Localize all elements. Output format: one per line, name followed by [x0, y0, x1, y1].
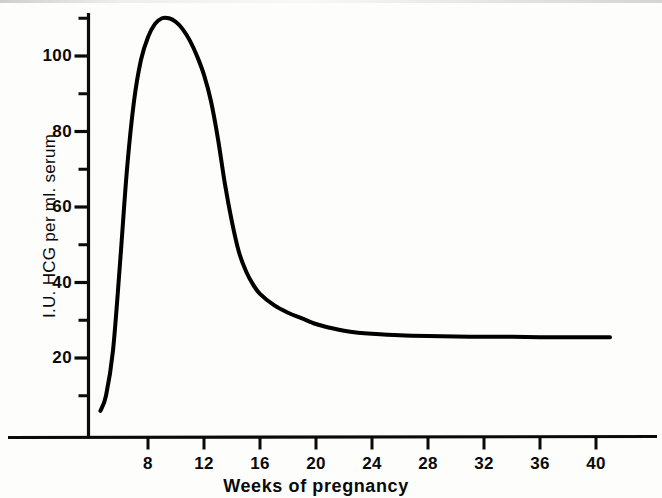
x-tick-label: 24: [362, 454, 382, 474]
y-tick-label: 20: [30, 348, 72, 368]
x-axis-ticks: [148, 438, 596, 450]
x-tick-label: 40: [586, 454, 606, 474]
x-tick-label: 12: [194, 454, 214, 474]
x-tick-label: 32: [474, 454, 494, 474]
x-axis-line: [8, 437, 657, 438]
x-axis-title: Weeks of pregnancy: [223, 476, 409, 497]
x-tick-label: 16: [250, 454, 270, 474]
x-tick-label: 20: [306, 454, 326, 474]
hcg-curve: [100, 18, 610, 411]
chart-figure: 20406080100 81216202428323640 I.U. HCG p…: [0, 0, 662, 498]
y-axis-title: I.U. HCG per ml. serum: [40, 134, 60, 318]
x-tick-label: 8: [143, 454, 153, 474]
y-axis-ticks: [75, 18, 89, 396]
plot-area: [0, 0, 662, 498]
x-tick-label: 36: [530, 454, 550, 474]
y-tick-label: 100: [30, 46, 72, 66]
x-tick-label: 28: [418, 454, 438, 474]
